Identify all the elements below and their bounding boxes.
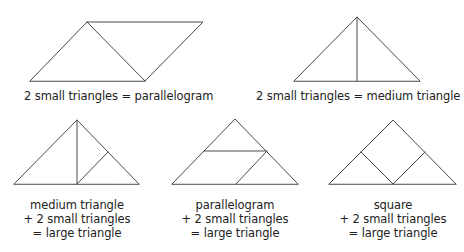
caption-line: 2 small triangles = parallelogram [24, 89, 208, 103]
caption-large-triangle-medium: medium triangle + 2 small triangles = la… [14, 198, 140, 240]
caption-line: + 2 small triangles [330, 212, 456, 226]
caption-line: parallelogram [172, 198, 298, 212]
caption-parallelogram: 2 small triangles = parallelogram [24, 89, 208, 103]
caption-line: medium triangle [14, 198, 140, 212]
caption-line: + 2 small triangles [172, 212, 298, 226]
caption-large-triangle-parallelogram: parallelogram + 2 small triangles = larg… [172, 198, 298, 240]
caption-line: 2 small triangles = medium triangle [256, 89, 456, 103]
caption-line: = large triangle [14, 226, 140, 240]
caption-medium-triangle: 2 small triangles = medium triangle [256, 89, 456, 103]
large-triangle-square-variant-shape [329, 120, 456, 184]
caption-line: + 2 small triangles [14, 212, 140, 226]
medium-triangle-shape [294, 17, 420, 81]
parallelogram-shape [30, 22, 203, 81]
large-triangle-parallelogram-variant-shape [172, 119, 298, 184]
caption-large-triangle-square: square + 2 small triangles = large trian… [330, 198, 456, 240]
caption-line: = large triangle [172, 226, 298, 240]
large-triangle-medium-variant-shape [14, 120, 139, 184]
caption-line: square [330, 198, 456, 212]
caption-line: = large triangle [330, 226, 456, 240]
